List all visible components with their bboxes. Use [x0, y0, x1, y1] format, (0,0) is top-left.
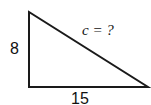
hypotenuse-label: c = ?: [82, 22, 114, 38]
triangle-diagram: 8 15 c = ?: [0, 0, 151, 105]
horizontal-leg-label: 15: [71, 90, 89, 105]
vertical-leg-label: 8: [10, 40, 19, 57]
hypotenuse-unknown: = ?: [89, 22, 115, 38]
